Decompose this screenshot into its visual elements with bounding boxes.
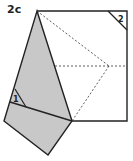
fold-2-marker: 2: [118, 15, 124, 24]
origami-diagram: 1 2: [0, 0, 133, 161]
folded-flap: [4, 11, 72, 155]
fold-1-marker: 1: [13, 95, 19, 104]
